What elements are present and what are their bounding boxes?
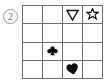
- grid-cell-r4c3[interactable]: [63, 61, 83, 79]
- grid-cell-r4c1[interactable]: [23, 61, 43, 79]
- grid-cell-r1c4[interactable]: [83, 6, 103, 24]
- grid-cell-r2c4[interactable]: [83, 24, 103, 42]
- grid-cell-r4c4[interactable]: [83, 61, 103, 79]
- grid-cell-r3c3[interactable]: [63, 43, 83, 61]
- grid-cell-r2c2[interactable]: [43, 24, 63, 42]
- grid-cell-r2c1[interactable]: [23, 24, 43, 42]
- item-number-badge: 2: [3, 9, 18, 24]
- club-filled-icon: [46, 45, 59, 58]
- grid-cell-r3c2[interactable]: [43, 43, 63, 61]
- puzzle-figure: 2: [0, 0, 107, 82]
- grid-cell-r3c1[interactable]: [23, 43, 43, 61]
- grid-cell-r2c3[interactable]: [63, 24, 83, 42]
- six-pointed-star-outline-icon: [86, 8, 99, 21]
- grid-cell-r1c2[interactable]: [43, 6, 63, 24]
- heart-filled-icon: [65, 62, 80, 76]
- grid-cell-r1c1[interactable]: [23, 6, 43, 24]
- grid-cell-r4c2[interactable]: [43, 61, 63, 79]
- triangle-down-outline-icon: [66, 9, 79, 21]
- grid-cell-r1c3[interactable]: [63, 6, 83, 24]
- grid-cell-r3c4[interactable]: [83, 43, 103, 61]
- symbol-grid: [22, 5, 103, 79]
